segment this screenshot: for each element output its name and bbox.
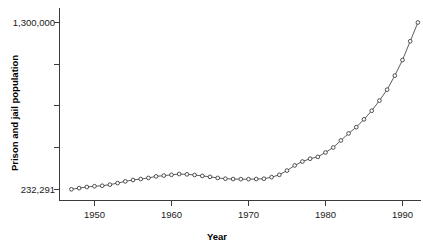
data-point bbox=[293, 164, 297, 168]
data-point bbox=[139, 177, 143, 181]
data-point bbox=[301, 160, 305, 164]
data-point bbox=[177, 172, 181, 176]
data-point bbox=[216, 176, 220, 180]
y-axis-tick-label-bottom: 232,291 bbox=[21, 184, 55, 195]
data-point bbox=[93, 184, 97, 188]
data-point bbox=[354, 125, 358, 129]
data-point bbox=[100, 184, 104, 188]
data-point bbox=[224, 177, 228, 181]
data-point bbox=[70, 187, 74, 191]
data-point bbox=[416, 21, 420, 25]
prison-population-chart: Prison and jail population 1,300,000 232… bbox=[0, 0, 423, 245]
data-point bbox=[170, 173, 174, 177]
x-axis-tick-label-1990: 1990 bbox=[392, 209, 413, 220]
x-axis-tick-label-1950: 1950 bbox=[84, 209, 105, 220]
data-point bbox=[277, 173, 281, 177]
data-point bbox=[262, 177, 266, 181]
data-point bbox=[270, 175, 274, 179]
data-point bbox=[362, 118, 366, 122]
data-point bbox=[331, 146, 335, 150]
x-axis-title: Year bbox=[207, 231, 227, 242]
data-point bbox=[285, 169, 289, 173]
data-point bbox=[116, 181, 120, 185]
chart-background bbox=[0, 0, 423, 245]
data-point bbox=[378, 99, 382, 103]
x-axis-tick-label-1960: 1960 bbox=[161, 209, 182, 220]
data-point bbox=[347, 132, 351, 136]
data-point bbox=[324, 151, 328, 155]
data-point bbox=[339, 139, 343, 143]
data-point bbox=[385, 88, 389, 92]
y-axis-tick-label-top: 1,300,000 bbox=[13, 17, 55, 28]
data-point bbox=[77, 186, 81, 190]
data-point bbox=[254, 177, 258, 181]
data-point bbox=[239, 177, 243, 181]
data-point bbox=[147, 176, 151, 180]
data-point bbox=[393, 74, 397, 78]
x-axis-tick-label-1980: 1980 bbox=[315, 209, 336, 220]
data-point bbox=[154, 175, 158, 179]
data-point bbox=[370, 109, 374, 113]
data-point bbox=[108, 183, 112, 187]
data-point bbox=[308, 157, 312, 161]
data-point bbox=[208, 175, 212, 179]
data-point bbox=[401, 58, 405, 62]
data-point bbox=[316, 155, 320, 159]
data-point bbox=[247, 177, 251, 181]
x-axis-tick-label-1970: 1970 bbox=[238, 209, 259, 220]
data-point bbox=[123, 180, 127, 184]
data-point bbox=[185, 173, 189, 177]
data-point bbox=[408, 39, 412, 43]
data-point bbox=[231, 177, 235, 181]
data-point bbox=[131, 178, 135, 182]
data-point bbox=[193, 173, 197, 177]
data-point bbox=[162, 174, 166, 178]
data-point bbox=[85, 185, 89, 189]
y-axis-title: Prison and jail population bbox=[9, 55, 20, 171]
data-point bbox=[200, 174, 204, 178]
